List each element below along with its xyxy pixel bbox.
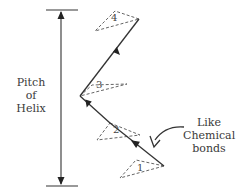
pitch-dimension-arrow [46, 10, 78, 186]
arrowhead-1 [131, 140, 140, 148]
pitch-label: Pitch of Helix [12, 76, 50, 115]
triangle-2-label: 2 [113, 124, 119, 135]
annotation-line-1: Like [183, 116, 235, 129]
triangle-3-label: 3 [96, 79, 102, 90]
arrowhead-3 [113, 47, 120, 55]
curved-pointer-arrow [150, 127, 184, 147]
annotation-line-2: Chemical [183, 129, 235, 142]
pitch-label-line-1: Pitch [12, 76, 50, 89]
bond-annotation-label: Like Chemical bonds [183, 116, 235, 155]
pitch-label-line-2: of [12, 89, 50, 102]
triangle-4-label: 4 [111, 12, 117, 23]
annotation-line-3: bonds [183, 142, 235, 155]
helix-diagram: Pitch of Helix Like Chemical bonds 1 2 3… [0, 0, 236, 195]
triangle-1-label: 1 [137, 162, 143, 173]
bond-triangles [80, 11, 164, 178]
pitch-label-line-3: Helix [12, 102, 50, 115]
